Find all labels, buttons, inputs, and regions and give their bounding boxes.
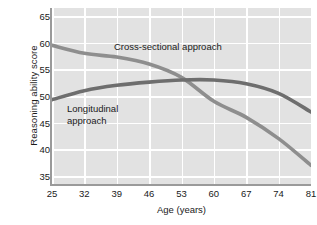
x-tick-label: 53 [169, 188, 195, 199]
y-tick-label: 60 [24, 37, 50, 48]
x-tick-label: 60 [201, 188, 227, 199]
x-tick-label: 67 [233, 188, 259, 199]
x-tick-label: 74 [266, 188, 292, 199]
annotation-cross-sectional: Cross-sectional approach [114, 41, 222, 53]
x-tick-label: 39 [104, 188, 130, 199]
y-tick-label: 35 [24, 171, 50, 182]
x-tick-label: 32 [71, 188, 97, 199]
y-axis-tick-labels: 35404550556065 [24, 8, 50, 184]
x-axis-line [50, 184, 311, 186]
y-tick-label: 50 [24, 91, 50, 102]
annotation-longitudinal: Longitudinal approach [67, 103, 118, 127]
x-axis-title: Age (years) [52, 204, 311, 215]
x-axis-tick-labels: 253239465360677481 [52, 188, 311, 202]
y-tick-label: 65 [24, 11, 50, 22]
y-tick-label: 55 [24, 64, 50, 75]
x-tick-label: 81 [298, 188, 317, 199]
y-axis-line [50, 8, 52, 186]
plot-area: Cross-sectional approach Longitudinal ap… [52, 8, 311, 184]
x-tick-label: 25 [39, 188, 65, 199]
x-tick-label: 46 [136, 188, 162, 199]
y-tick-label: 40 [24, 144, 50, 155]
series-lines [52, 8, 311, 184]
y-tick-label: 45 [24, 117, 50, 128]
reasoning-ability-line-chart: Reasoning ability score 35404550556065 C… [0, 0, 317, 225]
